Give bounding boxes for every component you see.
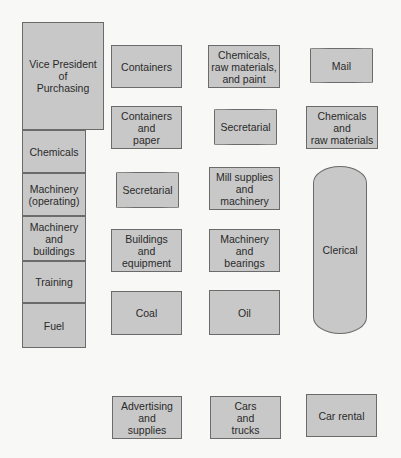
node-label: Chemicals, raw materials, and paint bbox=[211, 49, 276, 85]
node-cars-trucks: Cars and trucks bbox=[210, 396, 281, 439]
node-mill-supplies: Mill supplies and machinery bbox=[209, 167, 280, 210]
node-label: Clerical bbox=[322, 244, 357, 256]
node-coal: Coal bbox=[111, 291, 182, 335]
node-label: Mail bbox=[332, 60, 351, 72]
node-machinery-operating: Machinery (operating) bbox=[22, 173, 86, 216]
node-machinery-bearings: Machinery and bearings bbox=[209, 229, 280, 272]
node-secretarial-2: Secretarial bbox=[214, 109, 277, 145]
node-label: Coal bbox=[136, 307, 158, 319]
node-chem-raw: Chemicals and raw materials bbox=[306, 106, 378, 149]
node-chem-raw-paint: Chemicals, raw materials, and paint bbox=[208, 45, 280, 88]
node-label: Chemicals and raw materials bbox=[311, 110, 373, 146]
node-car-rental: Car rental bbox=[306, 394, 377, 437]
node-containers-paper: Containers and paper bbox=[111, 106, 182, 149]
node-label: Secretarial bbox=[122, 184, 172, 196]
node-label: Car rental bbox=[318, 410, 364, 422]
node-label: Machinery and buildings bbox=[30, 221, 78, 257]
node-label: Machinery and bearings bbox=[220, 233, 268, 269]
node-label: Mill supplies and machinery bbox=[216, 171, 273, 207]
node-oil: Oil bbox=[209, 290, 280, 335]
node-advertising: Advertising and supplies bbox=[112, 396, 182, 439]
node-training: Training bbox=[22, 261, 86, 303]
node-label: Training bbox=[35, 276, 73, 288]
node-label: Buildings and equipment bbox=[122, 233, 171, 269]
node-machinery-buildings: Machinery and buildings bbox=[22, 216, 86, 261]
node-mail: Mail bbox=[310, 48, 373, 83]
node-label: Cars and trucks bbox=[231, 400, 259, 436]
node-label: Chemicals bbox=[29, 146, 78, 158]
node-secretarial-1: Secretarial bbox=[116, 172, 179, 208]
node-chemicals: Chemicals bbox=[22, 130, 86, 173]
node-label: Fuel bbox=[44, 320, 64, 332]
node-label: Oil bbox=[238, 307, 251, 319]
node-clerical: Clerical bbox=[313, 166, 367, 334]
node-label: Vice President of Purchasing bbox=[29, 58, 97, 94]
node-label: Advertising and supplies bbox=[121, 400, 173, 436]
node-label: Containers and paper bbox=[121, 110, 172, 146]
node-label: Secretarial bbox=[220, 121, 270, 133]
node-fuel: Fuel bbox=[22, 303, 86, 348]
node-vp: Vice President of Purchasing bbox=[22, 22, 104, 130]
node-label: Machinery (operating) bbox=[29, 183, 80, 207]
node-label: Containers bbox=[121, 61, 172, 73]
node-buildings-equipment: Buildings and equipment bbox=[111, 229, 182, 272]
node-containers: Containers bbox=[111, 45, 182, 88]
